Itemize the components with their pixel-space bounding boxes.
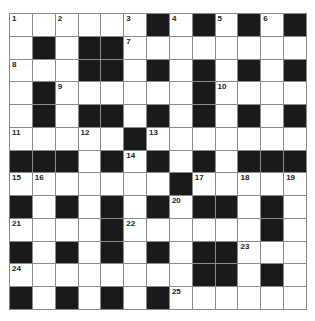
crossword-cell[interactable]: 11 (10, 128, 32, 150)
crossword-cell[interactable]: 12 (79, 128, 101, 150)
crossword-cell[interactable] (101, 128, 123, 150)
crossword-cell[interactable] (33, 128, 55, 150)
crossword-cell[interactable] (124, 264, 146, 286)
crossword-cell[interactable] (216, 173, 238, 195)
crossword-cell[interactable] (147, 173, 169, 195)
crossword-cell[interactable] (170, 151, 192, 173)
crossword-cell[interactable] (10, 37, 32, 59)
crossword-cell[interactable]: 19 (284, 173, 306, 195)
crossword-cell[interactable] (56, 37, 78, 59)
crossword-cell[interactable]: 20 (170, 196, 192, 218)
crossword-cell[interactable]: 25 (170, 287, 192, 309)
crossword-cell[interactable] (261, 287, 283, 309)
crossword-cell[interactable] (101, 14, 123, 36)
crossword-cell[interactable] (261, 128, 283, 150)
crossword-cell[interactable] (216, 151, 238, 173)
crossword-cell[interactable]: 16 (33, 173, 55, 195)
crossword-cell[interactable] (101, 264, 123, 286)
crossword-cell[interactable]: 15 (10, 173, 32, 195)
crossword-cell[interactable] (284, 287, 306, 309)
crossword-cell[interactable] (284, 264, 306, 286)
crossword-cell[interactable] (79, 219, 101, 241)
crossword-cell[interactable] (56, 60, 78, 82)
crossword-cell[interactable]: 10 (216, 82, 238, 104)
crossword-cell[interactable] (33, 14, 55, 36)
crossword-cell[interactable] (56, 264, 78, 286)
crossword-cell[interactable] (10, 105, 32, 127)
crossword-cell[interactable] (238, 287, 260, 309)
crossword-cell[interactable]: 14 (124, 151, 146, 173)
crossword-cell[interactable] (261, 82, 283, 104)
crossword-cell[interactable] (284, 196, 306, 218)
crossword-cell[interactable] (33, 287, 55, 309)
crossword-cell[interactable] (261, 37, 283, 59)
crossword-cell[interactable] (284, 82, 306, 104)
crossword-cell[interactable] (261, 173, 283, 195)
crossword-cell[interactable] (56, 105, 78, 127)
crossword-cell[interactable] (56, 173, 78, 195)
crossword-cell[interactable] (216, 219, 238, 241)
crossword-cell[interactable]: 6 (261, 14, 283, 36)
crossword-cell[interactable] (124, 196, 146, 218)
crossword-cell[interactable] (10, 82, 32, 104)
crossword-cell[interactable] (33, 196, 55, 218)
crossword-cell[interactable] (216, 105, 238, 127)
crossword-cell[interactable] (79, 82, 101, 104)
crossword-cell[interactable]: 18 (238, 173, 260, 195)
crossword-cell[interactable] (170, 128, 192, 150)
crossword-cell[interactable] (170, 105, 192, 127)
crossword-cell[interactable] (261, 60, 283, 82)
crossword-cell[interactable] (238, 196, 260, 218)
crossword-cell[interactable] (193, 219, 215, 241)
crossword-cell[interactable] (238, 264, 260, 286)
crossword-cell[interactable] (216, 60, 238, 82)
crossword-cell[interactable] (124, 60, 146, 82)
crossword-cell[interactable]: 21 (10, 219, 32, 241)
crossword-cell[interactable]: 1 (10, 14, 32, 36)
crossword-cell[interactable] (193, 128, 215, 150)
crossword-cell[interactable] (261, 242, 283, 264)
crossword-cell[interactable]: 23 (238, 242, 260, 264)
crossword-cell[interactable] (124, 82, 146, 104)
crossword-cell[interactable] (79, 264, 101, 286)
crossword-cell[interactable] (101, 173, 123, 195)
crossword-cell[interactable]: 24 (10, 264, 32, 286)
crossword-cell[interactable]: 9 (56, 82, 78, 104)
crossword-cell[interactable] (284, 37, 306, 59)
crossword-cell[interactable] (147, 37, 169, 59)
crossword-cell[interactable] (284, 242, 306, 264)
crossword-cell[interactable] (124, 105, 146, 127)
crossword-cell[interactable] (147, 82, 169, 104)
crossword-cell[interactable] (284, 219, 306, 241)
crossword-cell[interactable] (216, 37, 238, 59)
crossword-cell[interactable] (238, 37, 260, 59)
crossword-cell[interactable]: 3 (124, 14, 146, 36)
crossword-cell[interactable] (170, 82, 192, 104)
crossword-cell[interactable] (79, 196, 101, 218)
crossword-cell[interactable] (170, 242, 192, 264)
crossword-cell[interactable] (170, 264, 192, 286)
crossword-cell[interactable] (79, 14, 101, 36)
crossword-cell[interactable] (124, 242, 146, 264)
crossword-cell[interactable] (170, 60, 192, 82)
crossword-cell[interactable] (56, 128, 78, 150)
crossword-cell[interactable]: 13 (147, 128, 169, 150)
crossword-cell[interactable] (193, 287, 215, 309)
crossword-cell[interactable]: 8 (10, 60, 32, 82)
crossword-cell[interactable] (261, 105, 283, 127)
crossword-cell[interactable] (170, 37, 192, 59)
crossword-cell[interactable] (216, 287, 238, 309)
crossword-cell[interactable] (216, 128, 238, 150)
crossword-cell[interactable] (33, 242, 55, 264)
crossword-cell[interactable] (284, 128, 306, 150)
crossword-cell[interactable] (101, 82, 123, 104)
crossword-cell[interactable] (147, 264, 169, 286)
crossword-cell[interactable] (33, 219, 55, 241)
crossword-cell[interactable]: 7 (124, 37, 146, 59)
crossword-cell[interactable]: 17 (193, 173, 215, 195)
crossword-cell[interactable] (238, 128, 260, 150)
crossword-cell[interactable] (193, 37, 215, 59)
crossword-cell[interactable]: 2 (56, 14, 78, 36)
crossword-cell[interactable] (124, 287, 146, 309)
crossword-cell[interactable] (79, 287, 101, 309)
